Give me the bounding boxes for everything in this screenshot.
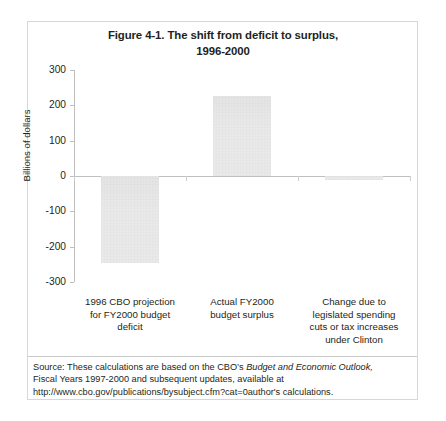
category-label-line: for FY2000 budget (75, 309, 185, 322)
y-axis-tick-label: 0 (22, 171, 66, 181)
source-divider (28, 356, 417, 357)
bar[interactable] (213, 96, 272, 176)
category-label-line: budget surplus (187, 309, 297, 322)
category-label-line: Change due to (299, 296, 409, 309)
y-axis-tick-label: -300 (22, 277, 66, 287)
category-label: 1996 CBO projectionfor FY2000 budgetdefi… (74, 296, 186, 352)
y-axis-tick-mark (70, 282, 74, 283)
chart-title-line-2: 1996-2000 (28, 44, 418, 60)
category-label-line: under Clinton (299, 334, 409, 347)
category-label-line: Actual FY2000 (187, 296, 297, 309)
chart-title: Figure 4-1. The shift from deficit to su… (28, 28, 418, 59)
source-note-publication-title: Budget and Economic Outlook, (246, 362, 373, 372)
category-label: Change due tolegislated spendingcuts or … (298, 296, 410, 352)
category-label: Actual FY2000budget surplus (186, 296, 298, 352)
source-note-line-2: Fiscal Years 1997-2000 and subsequent up… (33, 373, 417, 385)
category-label-line: cuts or tax increases (299, 321, 409, 334)
y-axis-tick-label: 100 (22, 136, 66, 146)
category-label-line: deficit (75, 321, 185, 334)
source-note: Source: These calculations are based on … (33, 361, 417, 398)
plot-area (74, 70, 410, 282)
category-axis-labels: 1996 CBO projectionfor FY2000 budgetdefi… (74, 296, 410, 352)
y-axis-tick-label: 200 (22, 100, 66, 110)
category-label-line: legislated spending (299, 309, 409, 322)
bar[interactable] (325, 176, 384, 180)
chart-title-line-1: Figure 4-1. The shift from deficit to su… (28, 28, 418, 44)
y-axis-tick-labels: 3002001000-100-200-300 (20, 0, 66, 421)
source-note-line-1: Source: These calculations are based on … (33, 361, 417, 373)
category-tick-mark (410, 176, 411, 181)
y-axis-tick-label: -200 (22, 242, 66, 252)
source-note-prefix: Source: These calculations are based on … (33, 362, 246, 372)
y-axis-tick-label: 300 (22, 65, 66, 75)
source-note-line-3: http://www.cbo.gov/publications/bysubjec… (33, 386, 417, 398)
category-label-line: 1996 CBO projection (75, 296, 185, 309)
y-axis-tick-label: -100 (22, 206, 66, 216)
bar[interactable] (101, 176, 160, 263)
